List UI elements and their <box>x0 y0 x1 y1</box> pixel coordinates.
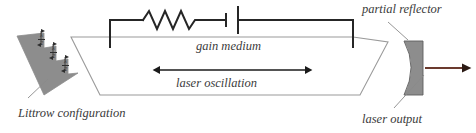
fraction-numerator: λ <box>62 58 69 65</box>
figure-canvas: gain medium laser oscillation Littrow co… <box>0 0 476 133</box>
littrow-configuration-label: Littrow configuration <box>18 106 126 121</box>
laser-oscillation-label: laser oscillation <box>176 76 257 91</box>
fraction-denominator: 2 <box>38 40 45 47</box>
fraction-numerator: λ <box>38 32 45 39</box>
gain-medium-label: gain medium <box>196 39 261 54</box>
partial-reflector-label: partial reflector <box>362 2 442 17</box>
resistor-icon <box>143 11 226 29</box>
partial-reflector <box>388 22 423 95</box>
laser-output <box>394 68 462 108</box>
partial-reflector-leader-line <box>388 22 408 40</box>
step-height-fraction: λ 2 <box>38 32 45 47</box>
step-height-fraction: λ 2 <box>50 45 57 60</box>
fraction-denominator: 2 <box>62 66 69 73</box>
fraction-denominator: 2 <box>50 53 57 60</box>
laser-output-label: laser output <box>362 112 422 127</box>
fraction-numerator: λ <box>50 45 57 52</box>
step-height-fraction: λ 2 <box>62 58 69 73</box>
circuit-left-lead <box>110 20 143 47</box>
